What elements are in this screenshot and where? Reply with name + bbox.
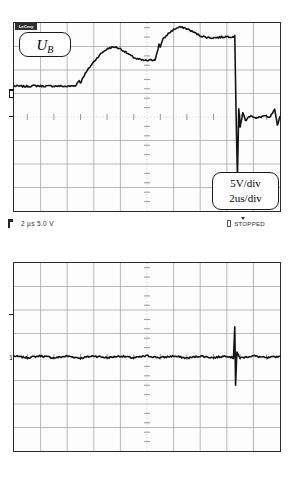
- signal-label-ub-main: U: [37, 33, 48, 58]
- trigger-state-ub: STOPPED: [234, 218, 265, 229]
- signal-label-ub: UB: [19, 32, 71, 57]
- vertical-scale-ub: 5V/div: [213, 176, 278, 191]
- scope-panel-ib: LeCroy IB 1 0.5A/div 2us/div 2 µs 0.50 A…: [0, 240, 297, 478]
- channel-zero-tick-ub: [9, 116, 13, 117]
- signal-label-ub-sub: B: [47, 44, 53, 55]
- settings-annotation-ub: 5V/div 2us/div: [212, 172, 279, 210]
- channel-indicator-icon-ub: [8, 219, 13, 228]
- graticule-screen-ib: [13, 262, 281, 452]
- channel-number-ib: 1: [9, 354, 13, 361]
- channel-upper-tick-ib: [9, 314, 13, 315]
- status-bar-ub: 2 µs 5.0 V STOPPED: [8, 218, 289, 230]
- trigger-mode-icon-ub: [227, 220, 231, 227]
- waveform-trace-ib: [14, 263, 280, 451]
- scope-panel-ub: LeCroy UB 5V/div 2us/div 2 µs 5.0 V STOP…: [0, 0, 297, 238]
- horizontal-scale-ub: 2us/div: [213, 191, 278, 206]
- channel-zero-marker-ub: [9, 89, 14, 98]
- status-scale-text-ub: 2 µs 5.0 V: [21, 218, 54, 229]
- lecroy-logo-ub: LeCroy: [15, 23, 37, 30]
